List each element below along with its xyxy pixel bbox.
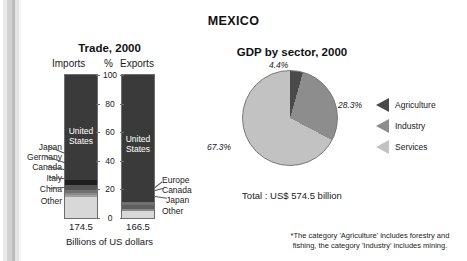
page-gutter <box>0 0 22 261</box>
exports-column-header: Exports <box>120 58 154 69</box>
atlas-page: MEXICO Trade, 2000 Imports % Exports Uni… <box>0 0 467 261</box>
chart-footnote: *The category 'Agriculture' includes for… <box>276 231 464 251</box>
imports-label-china: China <box>6 184 62 194</box>
footnote-line-1: *The category 'Agriculture' includes for… <box>276 231 464 241</box>
legend-item-agriculture: Agriculture <box>376 94 464 115</box>
trade-chart: Trade, 2000 Imports % Exports UnitedStat… <box>22 42 197 247</box>
footnote-line-2: fishing, the category 'Industry' include… <box>276 241 464 251</box>
trade-axis-caption: Billions of US dollars <box>22 236 197 247</box>
exports-total-value: 166.5 <box>117 221 159 232</box>
pie-label-services: 67.3% <box>207 142 231 152</box>
imports-label-germany: Germany <box>0 152 62 162</box>
gdp-pie <box>242 70 338 166</box>
exports-label-japan: Japan <box>166 195 189 205</box>
bar-segment <box>65 197 97 218</box>
gdp-chart: GDP by sector, 2000 4.4% 28.3% 67.3% Tot… <box>212 46 372 226</box>
imports-united-states-label: UnitedStates <box>64 126 98 146</box>
triangle-marker-icon <box>376 119 389 133</box>
gdp-legend: Agriculture Industry Services <box>376 94 464 157</box>
gdp-pie-area: 4.4% 28.3% 67.3% <box>212 64 372 184</box>
imports-total-value: 174.5 <box>60 221 102 232</box>
gdp-total-label: Total : US$ 574.5 billion <box>212 190 372 201</box>
pie-label-industry: 28.3% <box>338 100 362 110</box>
imports-column-header: Imports <box>52 58 85 69</box>
exports-label-canada: Canada <box>162 185 192 195</box>
trade-plot-area: UnitedStates UnitedStates 100806040200 J… <box>22 74 197 219</box>
percent-axis: 100806040200 <box>100 74 120 219</box>
gdp-chart-title: GDP by sector, 2000 <box>212 46 372 58</box>
trade-chart-title: Trade, 2000 <box>22 42 197 54</box>
triangle-marker-icon <box>376 140 389 154</box>
legend-item-industry: Industry <box>376 115 464 136</box>
page-title: MEXICO <box>0 14 467 28</box>
imports-label-japan: Japan <box>4 142 62 152</box>
bar-segment <box>122 211 154 218</box>
exports-label-other: Other <box>162 206 183 216</box>
legend-label-industry: Industry <box>395 121 425 131</box>
exports-label-europe: Europe <box>162 175 189 185</box>
imports-bar <box>64 74 98 219</box>
legend-item-services: Services <box>376 136 464 157</box>
pie-label-agriculture: 4.4% <box>269 60 288 70</box>
exports-united-states-label: UnitedStates <box>121 134 155 154</box>
imports-label-other: Other <box>8 196 62 206</box>
triangle-marker-icon <box>376 98 389 112</box>
legend-label-services: Services <box>395 142 428 152</box>
percent-axis-header: % <box>104 58 113 69</box>
legend-label-agriculture: Agriculture <box>395 100 436 110</box>
trade-totals: 174.5 166.5 <box>22 221 197 235</box>
